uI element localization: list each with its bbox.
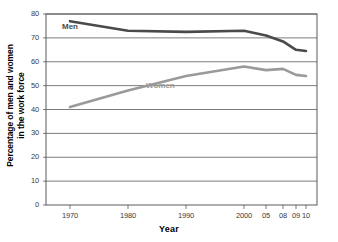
- y-axis-tick-label: 70: [17, 33, 39, 42]
- y-axis-tick-label: 50: [17, 81, 39, 90]
- y-axis-tick-label: 60: [17, 57, 39, 66]
- y-axis-tick-label: 40: [17, 105, 39, 114]
- y-axis-tick-label: 0: [17, 200, 39, 209]
- y-axis-title-line-1: Percentage of men and women: [5, 44, 16, 166]
- y-axis-tick-label: 20: [17, 152, 39, 161]
- chart-plot-area: [0, 0, 338, 242]
- x-axis-title: Year: [0, 224, 338, 234]
- series-label-women: Women: [146, 81, 175, 90]
- series-line-women: [70, 67, 306, 108]
- x-axis-tick-label: 1990: [166, 211, 206, 220]
- series-line-men: [70, 21, 306, 51]
- x-axis-tick-label: 10: [286, 211, 326, 220]
- y-axis-tick-label: 30: [17, 128, 39, 137]
- workforce-participation-chart: Percentage of men and women in the work …: [0, 0, 338, 242]
- y-axis-tick-label: 10: [17, 176, 39, 185]
- x-axis-tick-label: 1980: [108, 211, 148, 220]
- series-label-men: Men: [62, 22, 78, 31]
- y-axis-tick-label: 80: [17, 9, 39, 18]
- x-axis-tick-label: 1970: [50, 211, 90, 220]
